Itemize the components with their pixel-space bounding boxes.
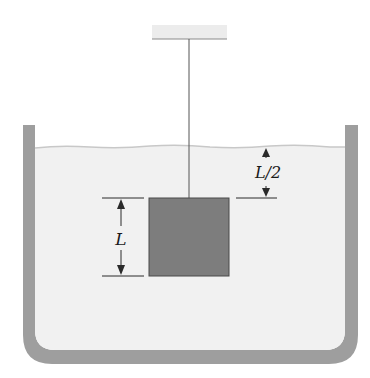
diagram-canvas: L L/2 [0, 0, 370, 378]
buoyancy-diagram: L L/2 [0, 0, 370, 378]
label-L: L [114, 229, 126, 249]
block [149, 198, 229, 276]
label-L-over-2: L/2 [254, 163, 281, 182]
ceiling-support [152, 25, 227, 39]
